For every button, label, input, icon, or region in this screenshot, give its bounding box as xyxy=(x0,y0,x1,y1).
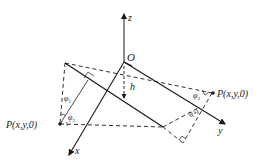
dashed-lower-left xyxy=(163,127,183,143)
x-axis xyxy=(69,62,124,155)
x-axis-label: x xyxy=(74,145,80,156)
dashed-bottom xyxy=(60,124,163,127)
origin-label: O xyxy=(127,51,135,63)
point-P-left-label: P(x,y,0) xyxy=(5,119,38,131)
point-P-right xyxy=(211,91,215,95)
point-P-right-label: P(x,y,0) xyxy=(216,88,249,100)
coordinate-diagram: z O x y h P(x,y,0) φ1 φ2 P(x,y,0) xyxy=(0,0,265,164)
angle-arc-phi2 xyxy=(66,122,67,126)
angle-label-phi1: φ1 xyxy=(64,94,71,104)
z-axis-label: z xyxy=(127,12,132,23)
height-label: h xyxy=(130,81,135,92)
point-P-left xyxy=(58,122,62,126)
angle-label-phi3: φ3 xyxy=(193,91,200,101)
y-axis-label: y xyxy=(217,125,223,136)
right-angle-bottom xyxy=(179,136,186,140)
angle-label-phi2: φ2 xyxy=(68,113,75,123)
